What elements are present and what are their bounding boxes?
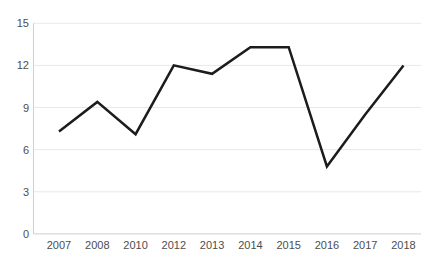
y-tick-label-0: 0 — [23, 228, 29, 240]
x-tick-label-2012: 2012 — [162, 239, 186, 251]
x-tick-label-2007: 2007 — [47, 239, 71, 251]
x-tick-label-2018: 2018 — [391, 239, 415, 251]
x-tick-label-2013: 2013 — [200, 239, 224, 251]
x-axis-tick-labels-group: 2007200820102012201320142015201620172018 — [47, 239, 416, 251]
y-tick-label-6: 6 — [23, 144, 29, 156]
line-chart: 03691215 2007200820102012201320142015201… — [0, 0, 434, 264]
x-tick-label-2015: 2015 — [276, 239, 300, 251]
y-tick-label-3: 3 — [23, 186, 29, 198]
x-tick-label-2017: 2017 — [353, 239, 377, 251]
x-tick-label-2008: 2008 — [85, 239, 109, 251]
x-tick-label-2016: 2016 — [315, 239, 339, 251]
y-tick-label-12: 12 — [17, 59, 29, 71]
x-tick-label-2014: 2014 — [238, 239, 262, 251]
y-tick-label-15: 15 — [17, 17, 29, 29]
axes-group — [34, 23, 422, 234]
y-axis-tick-labels-group: 03691215 — [17, 17, 29, 240]
chart-canvas: 03691215 2007200820102012201320142015201… — [0, 0, 434, 264]
x-tick-label-2010: 2010 — [123, 239, 147, 251]
y-tick-label-9: 9 — [23, 102, 29, 114]
